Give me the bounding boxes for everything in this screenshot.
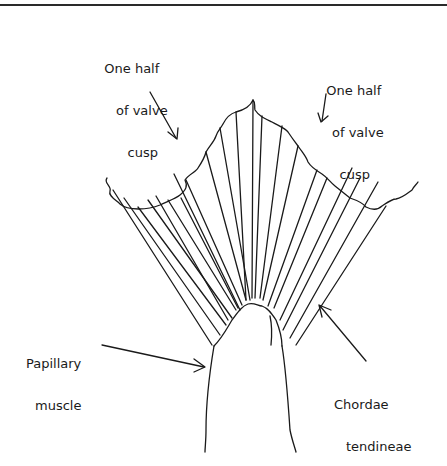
chord	[252, 100, 253, 298]
arrow-papillary	[102, 345, 204, 367]
label-papillary-muscle: Papillary muscle	[26, 329, 81, 427]
chord	[255, 116, 262, 298]
chord	[236, 112, 246, 300]
chord	[268, 170, 317, 306]
chord	[206, 152, 246, 300]
papillary-muscle-right	[282, 346, 296, 452]
chord	[263, 146, 298, 300]
label-left-cusp: One half of valve cusp	[96, 34, 168, 174]
chord	[148, 200, 232, 318]
chord	[138, 207, 226, 325]
arrow-chordae	[320, 306, 366, 361]
chord	[220, 128, 250, 300]
chord	[124, 198, 220, 335]
papillary-muscle	[205, 346, 214, 452]
chord	[274, 178, 327, 308]
label-right-cusp: One half of valve cusp	[324, 56, 384, 196]
chord	[296, 206, 386, 345]
chord	[260, 126, 282, 298]
label-chordae-tendineae: Chordae tendineae	[334, 370, 411, 466]
